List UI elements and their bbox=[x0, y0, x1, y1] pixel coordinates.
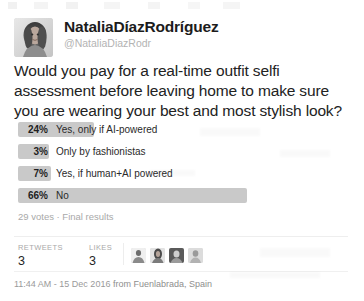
poll-meta: 29 votes · Final results bbox=[18, 211, 114, 222]
retweets-label: RETWEETS bbox=[18, 243, 63, 252]
retweets-stat[interactable]: RETWEETS 3 bbox=[18, 243, 63, 268]
stats-separator bbox=[123, 243, 124, 265]
poll-percent: 7% bbox=[18, 168, 48, 179]
poll: 24% Yes, only if AI-powered 3% Only by f… bbox=[18, 122, 348, 210]
likes-value: 3 bbox=[89, 255, 112, 268]
poll-option-row[interactable]: 3% Only by fashionistas bbox=[18, 144, 348, 159]
retweets-value: 3 bbox=[18, 255, 63, 268]
timestamp-location[interactable]: from Fuenlabrada, Spain bbox=[113, 279, 212, 289]
facepile bbox=[131, 248, 203, 263]
likes-label: LIKES bbox=[89, 243, 112, 252]
author-display-name[interactable]: NataliaDíazRodríguez bbox=[64, 19, 218, 35]
stats-divider-top bbox=[14, 236, 348, 237]
person-thumb-icon bbox=[188, 248, 203, 263]
engagement-stats: RETWEETS 3 LIKES 3 bbox=[18, 243, 138, 268]
scan-artifact bbox=[230, 272, 320, 278]
liker-avatar-4[interactable] bbox=[188, 248, 203, 263]
likes-stat[interactable]: LIKES 3 bbox=[89, 243, 112, 268]
liker-avatar-1[interactable] bbox=[131, 248, 146, 263]
person-thumb-icon bbox=[131, 248, 146, 263]
poll-option-label: No bbox=[56, 190, 69, 201]
poll-option-label: Yes, if human+AI powered bbox=[56, 168, 173, 179]
poll-percent: 3% bbox=[18, 146, 48, 157]
poll-option-row[interactable]: 7% Yes, if human+AI powered bbox=[18, 166, 348, 181]
person-thumb-icon bbox=[169, 248, 184, 263]
user-photo-avatar-icon bbox=[14, 18, 53, 57]
poll-option-label: Only by fashionistas bbox=[56, 146, 146, 157]
poll-option-label: Yes, only if AI-powered bbox=[56, 124, 157, 135]
tweet-card: NataliaDíazRodríguez @NataliaDiazRodr Wo… bbox=[0, 0, 364, 301]
tweet-header: NataliaDíazRodríguez @NataliaDiazRodr bbox=[14, 18, 218, 57]
avatar[interactable] bbox=[14, 18, 53, 57]
author-name-block: NataliaDíazRodríguez @NataliaDiazRodr bbox=[64, 18, 218, 49]
timestamp-time[interactable]: 11:44 AM - 15 Dec 2016 bbox=[14, 279, 110, 289]
poll-option-row[interactable]: 66% No bbox=[18, 188, 348, 203]
poll-bar bbox=[18, 188, 247, 203]
tweet-timestamp: 11:44 AM - 15 Dec 2016 from Fuenlabrada,… bbox=[14, 279, 212, 289]
footer-divider bbox=[14, 271, 348, 272]
author-handle[interactable]: @NataliaDiazRodr bbox=[64, 38, 218, 49]
person-thumb-icon bbox=[150, 248, 165, 263]
poll-option-row[interactable]: 24% Yes, only if AI-powered bbox=[18, 122, 348, 137]
liker-avatar-3[interactable] bbox=[169, 248, 184, 263]
poll-percent: 24% bbox=[18, 124, 48, 135]
poll-percent: 66% bbox=[18, 190, 48, 201]
liker-avatar-2[interactable] bbox=[150, 248, 165, 263]
tweet-text: Would you pay for a real-time outfit sel… bbox=[14, 61, 354, 121]
scan-artifact bbox=[260, 248, 330, 257]
